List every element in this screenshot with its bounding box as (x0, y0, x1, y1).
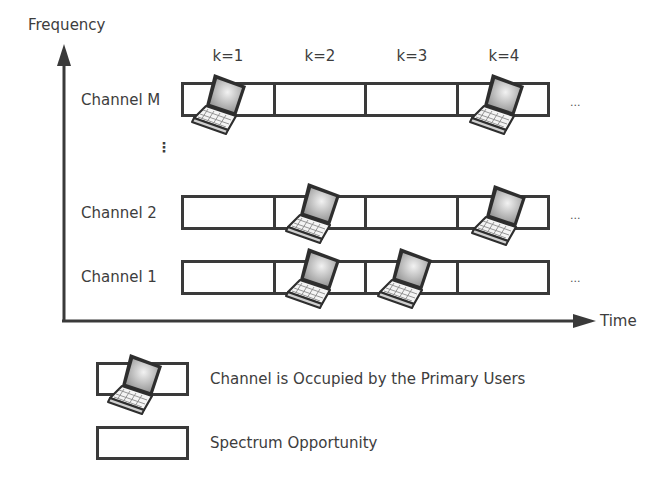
time-slot-label-k1: k=1 (182, 47, 274, 65)
slot-cell-opportunity (184, 263, 276, 292)
row-continuation-m: ... (570, 96, 581, 109)
laptop-icon (466, 72, 536, 136)
channel-label-1: Channel 1 (81, 270, 157, 285)
laptop-icon (282, 246, 352, 310)
slot-cell-opportunity (367, 198, 459, 227)
laptop-icon (468, 183, 538, 247)
slot-cell-opportunity (367, 85, 459, 114)
laptop-icon (188, 72, 258, 136)
legend-opportunity-label: Spectrum Opportunity (210, 436, 377, 451)
time-slot-label-k2: k=2 (274, 47, 366, 65)
x-axis-label: Time (600, 314, 637, 329)
channel-label-2: Channel 2 (81, 206, 157, 221)
y-axis-arrow-icon (57, 44, 71, 66)
row-continuation-1: ... (570, 272, 581, 285)
slot-cell-opportunity (276, 85, 368, 114)
laptop-icon (282, 181, 352, 245)
laptop-icon (374, 246, 444, 310)
x-axis-arrow-icon (573, 314, 596, 328)
laptop-icon (104, 352, 174, 416)
legend-occupied-label: Channel is Occupied by the Primary Users (210, 372, 525, 387)
slot-cell-opportunity (184, 198, 276, 227)
y-axis-label: Frequency (28, 18, 106, 33)
time-slot-label-k3: k=3 (366, 47, 458, 65)
time-slot-label-k4: k=4 (458, 47, 550, 65)
channel-row-1 (181, 260, 550, 295)
channel-label-m: Channel M (81, 93, 160, 108)
vertical-ellipsis: ⋮ (157, 140, 171, 154)
legend-opportunity-box (96, 426, 189, 460)
row-continuation-2: ... (570, 209, 581, 222)
slot-cell-opportunity (459, 263, 548, 292)
